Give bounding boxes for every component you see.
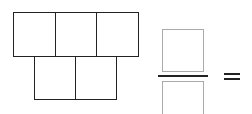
- numerator-input-box[interactable]: [162, 29, 204, 72]
- grid-cell-top-1: [13, 12, 56, 57]
- grid-cell-top-2: [55, 12, 97, 57]
- grid-cell-top-3: [96, 12, 139, 57]
- grid-cell-bottom-1: [34, 56, 76, 100]
- equals-bar-bottom: [224, 78, 240, 80]
- grid-cell-bottom-2: [75, 56, 117, 100]
- equals-bar-top: [224, 73, 240, 75]
- denominator-input-box[interactable]: [162, 81, 204, 114]
- fraction-bar: [158, 75, 208, 77]
